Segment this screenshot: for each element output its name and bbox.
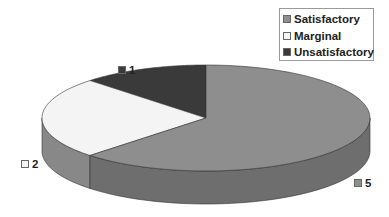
label-swatch-marginal [21, 160, 29, 168]
legend-label: Unsatisfactory [294, 46, 374, 58]
label-swatch-satisfactory [354, 179, 362, 187]
legend-item-unsatisfactory: Unsatisfactory [283, 44, 373, 61]
legend-swatch-satisfactory [283, 15, 291, 23]
data-label-marginal: 2 [21, 158, 38, 170]
data-label-value: 5 [365, 177, 371, 189]
chart-legend: Satisfactory Marginal Unsatisfactory [279, 8, 374, 61]
pie-top-faces [42, 65, 370, 171]
data-label-value: 2 [32, 158, 38, 170]
data-label-satisfactory: 5 [354, 177, 371, 189]
legend-swatch-unsatisfactory [283, 48, 291, 56]
data-label-value: 1 [129, 64, 135, 76]
legend-label: Marginal [294, 30, 341, 42]
data-label-unsatisfactory: 1 [118, 64, 135, 76]
legend-item-marginal: Marginal [283, 28, 373, 45]
legend-swatch-marginal [283, 32, 291, 40]
legend-label: Satisfactory [294, 13, 360, 25]
legend-item-satisfactory: Satisfactory [283, 11, 373, 28]
label-swatch-unsatisfactory [118, 66, 126, 74]
